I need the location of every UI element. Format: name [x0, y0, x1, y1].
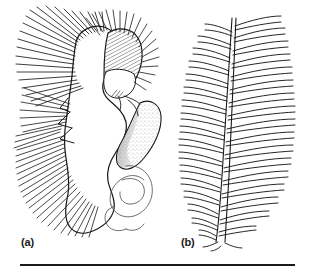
panel-label-b: (b)	[181, 237, 194, 248]
panel-label-a: (a)	[21, 237, 34, 248]
figure-plate	[0, 0, 311, 276]
